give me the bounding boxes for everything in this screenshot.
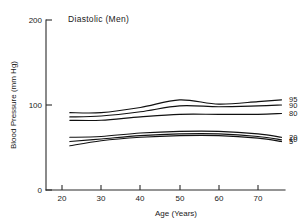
y-tick-label-0: 0 xyxy=(38,186,43,195)
x-tick-label-50: 50 xyxy=(176,194,185,203)
y-tick-label-100: 100 xyxy=(29,101,43,110)
x-tick-label-40: 40 xyxy=(136,194,145,203)
series-group xyxy=(70,100,282,146)
y-axis-title: Blood Pressure (mm Hg) xyxy=(9,61,18,149)
y-tick-label-200: 200 xyxy=(29,16,43,25)
series-label-p5: 5 xyxy=(289,137,293,146)
x-tick-label-60: 60 xyxy=(215,194,224,203)
x-tick-label-20: 20 xyxy=(58,194,67,203)
x-axis-title: Age (Years) xyxy=(155,209,197,218)
series-legend: 95908020105 xyxy=(289,95,297,146)
chart-container: 200 100 0 20 30 40 50 60 70 Diastolic (M… xyxy=(0,0,305,222)
curve-p80 xyxy=(70,114,282,121)
x-tick-label-30: 30 xyxy=(97,194,106,203)
series-label-p80: 80 xyxy=(289,109,297,118)
curve-p90 xyxy=(70,105,282,117)
chart-title: Diastolic (Men) xyxy=(68,14,129,24)
x-tick-label-70: 70 xyxy=(254,194,263,203)
chart-svg: 200 100 0 20 30 40 50 60 70 Diastolic (M… xyxy=(0,0,305,222)
